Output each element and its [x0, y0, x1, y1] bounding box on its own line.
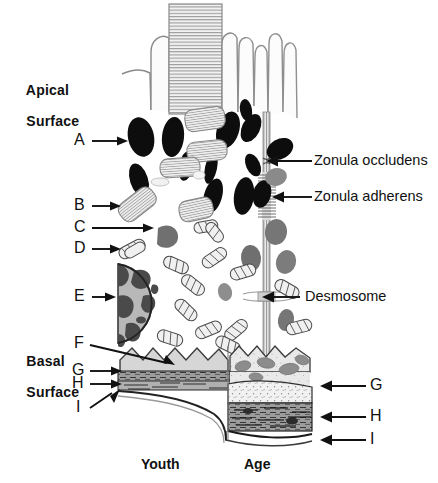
leader-E [92, 293, 116, 302]
epithelial-cell-diagram: Apical Surface Basal Surface A B C D E F… [0, 0, 438, 483]
label-letter-e[interactable]: E [74, 287, 85, 305]
basal-surface-line1: Basal [26, 353, 64, 369]
leader-zonula-adherens [272, 192, 312, 203]
label-letter-i-right[interactable]: I [370, 430, 374, 448]
leader-G-right [320, 381, 366, 392]
apical-surface-label: Apical Surface [10, 67, 79, 145]
basal-complex-age [226, 346, 312, 446]
label-letter-h-right[interactable]: H [370, 407, 382, 425]
apical-microvilli-group [122, 4, 297, 118]
footer-label-youth: Youth [141, 457, 180, 473]
label-letter-b[interactable]: B [74, 196, 85, 214]
label-letter-c[interactable]: C [74, 218, 86, 236]
label-desmosome: Desmosome [305, 288, 386, 304]
leader-C [92, 224, 154, 233]
label-letter-i-left[interactable]: I [76, 398, 80, 416]
nucleus [118, 264, 158, 347]
label-letter-h-left[interactable]: H [72, 374, 84, 392]
basal-surface-label: Basal Surface [10, 338, 79, 416]
leader-H-right [320, 412, 366, 423]
label-letter-d[interactable]: D [74, 239, 86, 257]
label-letter-a[interactable]: A [74, 131, 85, 149]
leader-B [92, 202, 121, 211]
label-zonula-occludens: Zonula occludens [314, 152, 428, 168]
apical-surface-line2: Surface [26, 113, 79, 129]
leader-D [92, 245, 121, 254]
leader-H-left [90, 380, 122, 389]
label-letter-g-right[interactable]: G [370, 376, 382, 394]
apical-surface-line1: Apical [26, 82, 69, 98]
leader-I-left [90, 389, 120, 408]
footer-label-age: Age [244, 457, 270, 473]
leader-I-right [320, 435, 366, 446]
leader-A [92, 137, 128, 146]
label-zonula-adherens: Zonula adherens [314, 188, 423, 204]
basal-complex-youth [118, 348, 230, 443]
leader-G-left [90, 367, 122, 376]
label-letter-f[interactable]: F [74, 334, 84, 352]
